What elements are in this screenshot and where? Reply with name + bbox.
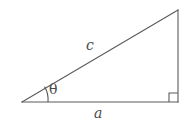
right-triangle-figure — [0, 0, 189, 121]
base-label: a — [94, 106, 102, 120]
right-angle-marker-icon — [169, 93, 178, 102]
angle-label-theta: θ — [49, 82, 57, 96]
hypotenuse-label: c — [86, 38, 94, 52]
figure-canvas: c a θ — [0, 0, 189, 121]
